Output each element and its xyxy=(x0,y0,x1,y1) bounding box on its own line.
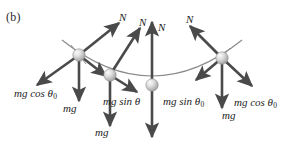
mg-sin-theta-label-mid: mg sin θ xyxy=(103,96,140,108)
mg-cos-theta-arrow-1 xyxy=(37,55,79,85)
weight-label-3: mg xyxy=(222,110,235,121)
theta-subscript-right-cos: 0 xyxy=(273,101,277,110)
mg-sin-theta-right-prefix: mg sin xyxy=(163,95,195,107)
mg-sin-theta-mid-prefix: mg sin xyxy=(103,95,135,107)
theta-subscript-left: 0 xyxy=(53,92,57,101)
bead-4 xyxy=(216,52,228,64)
normal-force-label-4: N xyxy=(186,14,193,25)
mg-cos-theta-label-left: mg cos θ0 xyxy=(14,88,57,100)
mg-cos-theta-label-right: mg cos θ0 xyxy=(234,97,277,109)
weight-label-1: mg xyxy=(63,103,76,114)
mg-cos-theta-right-prefix: mg cos xyxy=(234,96,268,108)
bead-2 xyxy=(104,69,116,81)
weight-label-2: mg xyxy=(95,127,108,138)
normal-force-arrow-1 xyxy=(79,23,119,55)
theta-subscript-right-sin: 0 xyxy=(200,100,204,109)
normal-force-arrow-4 xyxy=(190,26,222,58)
normal-force-label-1: N xyxy=(119,12,126,23)
bead-1 xyxy=(73,49,85,61)
free-body-diagram-figure: (b) N N N N mg mg mg mg cos θ0 mg sin θ … xyxy=(0,0,288,144)
mg-cos-theta-left-prefix: mg cos xyxy=(14,87,48,99)
normal-force-label-2: N xyxy=(139,17,146,28)
normal-force-arrow-2 xyxy=(110,28,140,75)
bead-3 xyxy=(146,79,158,91)
mg-sin-theta-label-right: mg sin θ0 xyxy=(163,96,204,108)
panel-label: (b) xyxy=(6,10,21,25)
normal-force-label-3: N xyxy=(158,22,165,33)
